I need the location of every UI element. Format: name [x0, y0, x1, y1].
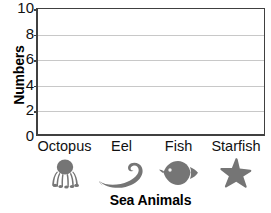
y-tick-mark-10 [34, 9, 38, 11]
eel-icon [93, 155, 150, 191]
y-tick-mark-2 [34, 111, 38, 113]
plot-area [36, 8, 265, 136]
y-tick-label-8: 8 [8, 26, 34, 41]
y-tick-mark-8 [34, 35, 38, 37]
y-axis-tick-labels: 10 8 6 4 2 0 [8, 0, 34, 140]
x-label-eel: Eel [93, 138, 150, 155]
octopus-icon [36, 155, 93, 191]
gridline-6 [38, 60, 264, 61]
gridline-2 [38, 111, 264, 112]
gridline-8 [38, 35, 264, 36]
y-tick-label-6: 6 [8, 51, 34, 66]
y-tick-label-4: 4 [8, 77, 34, 92]
y-tick-label-10: 10 [8, 0, 34, 15]
x-axis-title: Sea Animals [36, 192, 265, 208]
y-tick-label-0: 0 [8, 128, 34, 143]
x-axis-category-labels: Octopus Eel Fish Starfish [36, 138, 265, 156]
x-label-starfish: Starfish [207, 138, 265, 155]
fish-icon [150, 155, 207, 191]
y-tick-mark-6 [34, 60, 38, 62]
starfish-icon [207, 155, 265, 191]
gridline-4 [38, 86, 264, 87]
y-tick-mark-4 [34, 86, 38, 88]
bar-chart: Numbers 10 8 6 4 2 0 Octopus Eel Fish St… [0, 0, 271, 213]
x-label-octopus: Octopus [36, 138, 93, 155]
y-tick-label-2: 2 [8, 102, 34, 117]
x-axis-category-icons [36, 155, 265, 191]
x-label-fish: Fish [150, 138, 207, 155]
